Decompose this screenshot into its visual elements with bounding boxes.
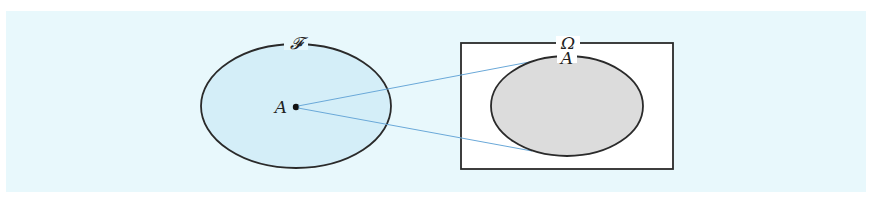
point-a-dot — [293, 104, 299, 110]
mapping-diagram: 𝓕 A Ω A — [0, 0, 876, 209]
subset-ellipse — [491, 56, 643, 156]
subset-label: A — [559, 48, 573, 68]
point-a-label: A — [273, 97, 287, 117]
family-set-f: 𝓕 — [201, 33, 391, 168]
